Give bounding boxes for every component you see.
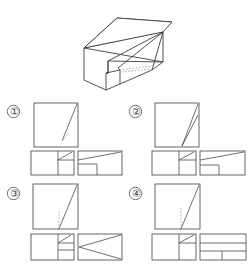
question-sheet: ① ② [0,0,251,277]
option-2-label: ② [132,106,141,117]
option-1[interactable]: ① [0,97,125,179]
option-1-label: ① [10,106,19,117]
option-3-side-view [78,234,122,260]
option-3[interactable]: ③ [0,179,125,277]
option-2-front-view [155,103,199,147]
option-2-top-view [152,151,196,175]
option-2[interactable]: ② [125,97,251,179]
option-1-side-view [78,151,122,175]
option-3-front-view [33,184,78,229]
option-4[interactable]: ④ [125,179,251,277]
option-3-label: ③ [10,188,19,199]
option-4-front-view [155,184,200,229]
option-4-label: ④ [132,188,141,199]
option-2-side-view [200,151,245,175]
option-1-front-view [34,103,78,147]
option-4-side-view [200,234,246,260]
option-4-top-view [152,234,196,260]
option-1-top-view [31,151,74,175]
isometric-solid [0,0,251,97]
option-3-top-view [31,234,74,260]
